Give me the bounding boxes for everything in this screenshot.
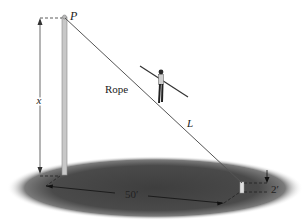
balance-pole [140, 66, 188, 97]
short-height-label: 2′ [271, 183, 279, 195]
short-pole [240, 182, 244, 193]
tightrope-diagram: P Rope L x 50′ 2′ [0, 0, 302, 221]
tightrope-walker [140, 66, 188, 103]
point-p-label: P [69, 9, 78, 23]
rope-label: Rope [105, 83, 128, 95]
tall-pole [62, 15, 67, 175]
height-x-label: x [36, 94, 42, 106]
distance-label: 50′ [125, 188, 138, 200]
length-l-label: L [186, 117, 193, 129]
